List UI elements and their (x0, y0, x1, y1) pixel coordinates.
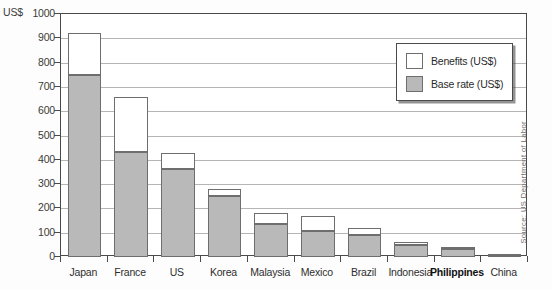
bar-segment-base-rate (68, 75, 102, 257)
y-axis-tick-label: 0 (7, 250, 55, 262)
x-axis-label-china: China (490, 266, 516, 278)
bar-segment-base-rate (114, 152, 148, 257)
bar-segment-base-rate (488, 255, 522, 257)
legend: Benefits (US$) Base rate (US$) (396, 43, 513, 101)
x-axis-tick-mark (247, 256, 248, 262)
x-axis-label-mexico: Mexico (301, 266, 333, 278)
legend-item-base-rate: Base rate (US$) (406, 75, 503, 93)
bar-segment-base-rate (208, 196, 242, 257)
y-axis-tick-label: 800 (7, 56, 55, 68)
x-axis-tick-mark (294, 256, 295, 262)
chart-screenshot: US$ 01002003004005006007008009001000 Jap… (0, 0, 552, 289)
bar-segment-base-rate (348, 235, 382, 257)
x-axis-tick-mark (480, 256, 481, 262)
x-axis-label-france: France (114, 266, 145, 278)
legend-item-benefits: Benefits (US$) (406, 52, 496, 70)
bar-segment-benefits (301, 216, 335, 231)
y-axis-tick-label: 900 (7, 31, 55, 43)
bar-us (161, 14, 195, 257)
y-axis-tick-label: 100 (7, 226, 55, 238)
y-axis-tick-label: 1000 (7, 7, 55, 19)
legend-swatch-benefits-icon (406, 53, 423, 69)
bar-segment-base-rate (301, 231, 335, 257)
x-axis-label-korea: Korea (210, 266, 237, 278)
x-axis-label-brazil: Brazil (351, 266, 376, 278)
y-axis-tick-label: 300 (7, 177, 55, 189)
y-axis-tick-label: 200 (7, 201, 55, 213)
bar-segment-benefits (114, 97, 148, 152)
y-axis-labels: 01002003004005006007008009001000 (0, 0, 55, 289)
source-note: Source: US Department of Labor (519, 121, 528, 244)
x-axis-tick-mark (527, 256, 528, 262)
legend-label-benefits: Benefits (US$) (431, 55, 496, 67)
bar-segment-benefits (254, 213, 288, 224)
x-axis-tick-mark (200, 256, 201, 262)
bar-segment-benefits (161, 153, 195, 169)
legend-label-base-rate: Base rate (US$) (431, 78, 503, 90)
x-axis-label-malaysia: Malaysia (250, 266, 290, 278)
bar-segment-benefits (68, 33, 102, 75)
bar-brazil (348, 14, 382, 257)
legend-swatch-base-rate-icon (406, 76, 423, 92)
bar-segment-base-rate (254, 224, 288, 257)
bar-france (114, 14, 148, 257)
x-axis-label-japan: Japan (70, 266, 98, 278)
x-axis-label-us: US (170, 266, 184, 278)
bar-segment-base-rate (441, 249, 475, 257)
x-axis-label-indonesia: Indonesia (388, 266, 432, 278)
x-axis-tick-mark (153, 256, 154, 262)
y-axis-tick-label: 700 (7, 80, 55, 92)
x-axis-label-philippines: Philippines (430, 266, 484, 278)
bar-segment-base-rate (394, 245, 428, 257)
y-axis-tick-label: 600 (7, 104, 55, 116)
x-axis-tick-mark (387, 256, 388, 262)
bar-korea (208, 14, 242, 257)
x-axis-tick-mark (434, 256, 435, 262)
bar-mexico (301, 14, 335, 257)
x-axis-tick-mark (340, 256, 341, 262)
x-axis-tick-mark (107, 256, 108, 262)
x-axis-tick-mark (60, 256, 61, 262)
bar-malaysia (254, 14, 288, 257)
bar-japan (68, 14, 102, 257)
bar-segment-benefits (348, 228, 382, 235)
y-axis-tick-label: 500 (7, 129, 55, 141)
bar-segment-benefits (208, 189, 242, 196)
bar-segment-base-rate (161, 169, 195, 257)
y-axis-tick-label: 400 (7, 153, 55, 165)
